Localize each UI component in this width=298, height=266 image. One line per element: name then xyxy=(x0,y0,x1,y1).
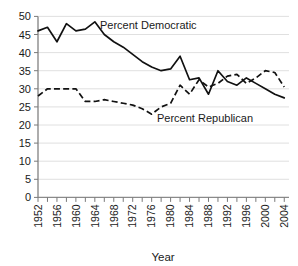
chart-svg: 50 45 40 35 30 25 20 15 10 5 0 195219561… xyxy=(0,0,298,266)
y-tick-label: 20 xyxy=(19,119,31,131)
y-tick-label: 35 xyxy=(19,65,31,77)
x-tick-label: 1984 xyxy=(183,204,195,228)
x-tick-label: 1960 xyxy=(70,204,82,228)
x-tick-label: 1968 xyxy=(108,204,120,228)
x-tick-label: 1988 xyxy=(202,204,214,228)
x-tick-label: 1964 xyxy=(89,204,101,228)
y-tick-label: 30 xyxy=(19,83,31,95)
x-tick-label: 1956 xyxy=(51,204,63,228)
y-tick-label: 25 xyxy=(19,101,31,113)
x-tick-label: 1996 xyxy=(240,204,252,228)
y-tick-label: 5 xyxy=(25,173,31,185)
x-tick-labels: 1952195619601964196819721976198019841988… xyxy=(32,204,290,228)
series-line-percent-democratic xyxy=(38,22,284,98)
y-tick-label: 10 xyxy=(19,155,31,167)
x-tick-label: 1992 xyxy=(221,204,233,228)
series-line-percent-republican xyxy=(38,71,284,114)
x-axis-title: Year xyxy=(151,251,174,263)
x-tick-label: 1980 xyxy=(164,204,176,228)
gridlines xyxy=(38,16,289,179)
series-annotation-percent-democratic: Percent Democratic xyxy=(100,19,197,31)
y-tick-labels: 50 45 40 35 30 25 20 15 10 5 0 xyxy=(19,10,31,203)
y-tick-label: 45 xyxy=(19,29,31,41)
x-tick-label: 2004 xyxy=(278,204,290,228)
x-tick-label: 1952 xyxy=(32,204,44,228)
x-tick-label: 1972 xyxy=(126,204,138,228)
y-tick-label: 50 xyxy=(19,10,31,22)
party-identification-chart: 50 45 40 35 30 25 20 15 10 5 0 195219561… xyxy=(0,0,298,266)
x-tick-label: 2000 xyxy=(259,204,271,228)
x-tick-label: 1976 xyxy=(145,204,157,228)
series-annotation-percent-republican: Percent Republican xyxy=(157,112,253,124)
y-tick-label: 0 xyxy=(25,191,31,203)
y-tick-label: 15 xyxy=(19,137,31,149)
y-tick-label: 40 xyxy=(19,47,31,59)
